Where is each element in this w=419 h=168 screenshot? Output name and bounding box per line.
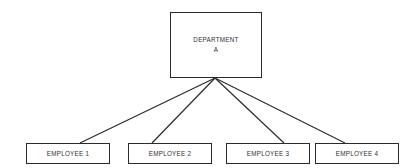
connector-line-employee-2 — [152, 78, 215, 143]
department-name-line-2: A — [214, 45, 218, 55]
node-employee-2[interactable]: EMPLOYEE 2 — [128, 143, 212, 164]
employee-4-label: EMPLOYEE 4 — [336, 150, 378, 157]
node-employee-3[interactable]: EMPLOYEE 3 — [226, 143, 310, 164]
org-chart-canvas: DEPARTMENT A EMPLOYEE 1 EMPLOYEE 2 EMPLO… — [0, 0, 419, 168]
employee-1-label: EMPLOYEE 1 — [47, 150, 89, 157]
connector-line-employee-1 — [80, 78, 215, 143]
department-name-line-1: DEPARTMENT — [193, 35, 238, 45]
node-employee-1[interactable]: EMPLOYEE 1 — [26, 143, 110, 164]
connector-line-employee-4 — [215, 78, 345, 143]
employee-2-label: EMPLOYEE 2 — [149, 150, 191, 157]
node-employee-4[interactable]: EMPLOYEE 4 — [315, 143, 399, 164]
connector-line-employee-3 — [215, 78, 284, 143]
employee-3-label: EMPLOYEE 3 — [247, 150, 289, 157]
node-department-a[interactable]: DEPARTMENT A — [170, 12, 262, 78]
